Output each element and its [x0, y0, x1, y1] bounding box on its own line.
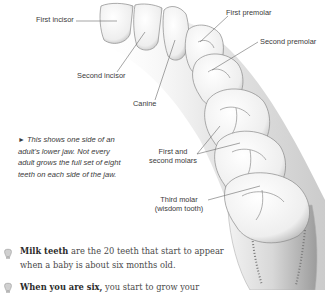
- caption-text: This shows one side of an adult's lower …: [18, 135, 121, 179]
- paragraph-milk-teeth-bold: Milk teeth: [20, 246, 68, 256]
- tooth-icon: [2, 282, 14, 294]
- paragraph-milk-teeth: Milk teeth are the 20 teeth that start t…: [20, 244, 230, 272]
- label-first-second-molars: First and second molars: [148, 148, 198, 165]
- tooth-icon: [2, 248, 14, 260]
- label-first-premolar: First premolar: [226, 9, 272, 18]
- paragraph-when-six: When you are six, you start to grow your: [20, 280, 230, 294]
- second-incisor-tooth: [134, 4, 162, 50]
- first-incisor-tooth: [100, 3, 133, 43]
- label-third-molar-line2: (wisdom tooth): [155, 204, 203, 213]
- diagram-caption: ►This shows one side of an adult's lower…: [18, 134, 126, 180]
- caption-arrow-icon: ►: [18, 136, 25, 143]
- paragraph-when-six-text: you start to grow your: [102, 282, 199, 292]
- label-canine: Canine: [133, 100, 156, 109]
- label-third-molar: Third molar (wisdom tooth): [152, 196, 206, 213]
- label-second-premolar: Second premolar: [260, 38, 316, 47]
- label-second-incisor: Second incisor: [77, 72, 125, 81]
- label-molars-line2: second molars: [149, 156, 197, 165]
- label-first-incisor: First incisor: [36, 16, 74, 25]
- canine-tooth: [163, 7, 189, 61]
- paragraph-when-six-bold: When you are six,: [20, 282, 102, 292]
